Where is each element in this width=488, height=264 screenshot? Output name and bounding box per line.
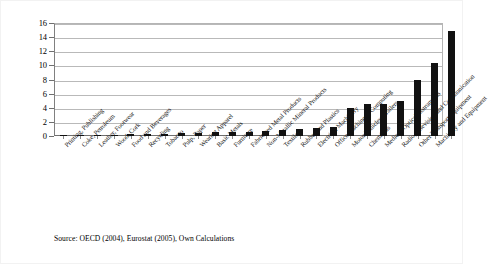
bar	[414, 80, 421, 137]
x-tick-mark	[350, 136, 351, 139]
x-tick-mark	[148, 136, 149, 139]
y-tick-label: 14	[39, 33, 47, 42]
x-tick-mark	[165, 136, 166, 139]
bar	[330, 127, 337, 136]
y-tick-mark	[49, 136, 54, 137]
bar	[347, 108, 354, 136]
x-tick-mark	[283, 136, 284, 139]
bar	[431, 63, 438, 136]
bar	[296, 129, 303, 136]
y-tick-label: 16	[39, 19, 47, 28]
x-tick-mark	[367, 136, 368, 139]
x-tick-mark	[131, 136, 132, 139]
x-tick-mark	[401, 136, 402, 139]
x-tick-mark	[114, 136, 115, 139]
x-tick-mark	[182, 136, 183, 139]
y-axis: 0246810121416	[1, 1, 54, 161]
x-tick-mark	[63, 136, 64, 139]
y-tick-label: 6	[43, 89, 47, 98]
x-tick-mark	[435, 136, 436, 139]
bar-series	[55, 23, 443, 136]
y-tick-label: 10	[39, 61, 47, 70]
x-tick-mark	[97, 136, 98, 139]
x-tick-mark	[300, 136, 301, 139]
bar	[380, 104, 387, 136]
x-tick-mark	[333, 136, 334, 139]
x-tick-mark	[451, 136, 452, 139]
y-tick-label: 4	[43, 104, 47, 113]
y-tick-label: 12	[39, 47, 47, 56]
x-tick-mark	[316, 136, 317, 139]
x-axis-ticks	[55, 136, 443, 140]
y-tick-label: 8	[43, 75, 47, 84]
x-tick-mark	[232, 136, 233, 139]
x-tick-mark	[266, 136, 267, 139]
y-tick-label: 2	[43, 118, 47, 127]
x-tick-mark	[384, 136, 385, 139]
x-tick-mark	[198, 136, 199, 139]
bar	[313, 128, 320, 136]
y-tick-label: 0	[43, 132, 47, 141]
x-tick-mark	[249, 136, 250, 139]
bar	[364, 104, 371, 136]
x-tick-mark	[80, 136, 81, 139]
x-tick-mark	[215, 136, 216, 139]
bar	[397, 101, 404, 136]
bar	[448, 31, 455, 136]
source-note: Source: OECD (2004), Eurostat (2005), Ow…	[54, 235, 234, 243]
x-tick-mark	[418, 136, 419, 139]
